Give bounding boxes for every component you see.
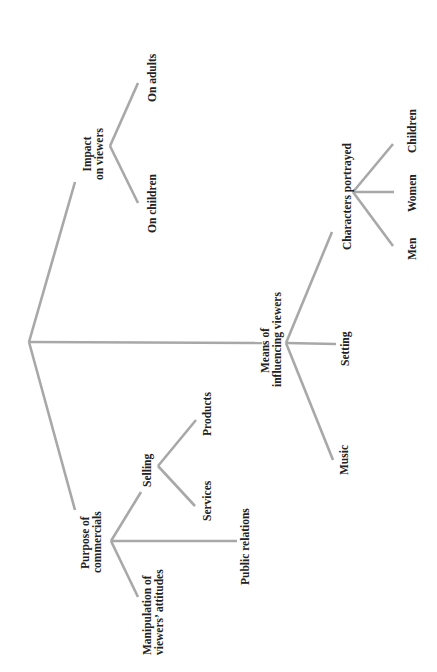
node-women: Women: [406, 174, 418, 212]
node-purpose-of-commercials: Purpose of commercials: [79, 511, 103, 573]
node-manipulation-line1: Manipulation of: [141, 569, 153, 655]
node-purpose-line1: Purpose of: [79, 511, 91, 573]
edge-root-impact: [29, 182, 75, 342]
node-services: Services: [201, 481, 213, 521]
edge-characters-children: [353, 144, 393, 192]
node-means-line1: Means of: [259, 292, 271, 387]
node-means-of-influencing-viewers: Means of influencing viewers: [259, 292, 283, 387]
edge-root-purpose: [29, 342, 75, 510]
edge-selling-services: [158, 466, 195, 506]
node-children: Children: [406, 109, 418, 153]
tree-diagram: Impact on viewers On children On adults …: [0, 0, 437, 672]
edge-root-means: [29, 342, 262, 343]
edge-means-setting: [286, 343, 336, 344]
node-impact-line2: on viewers: [93, 121, 105, 187]
tree-edges: [0, 0, 437, 672]
node-purpose-line2: commercials: [91, 511, 103, 573]
node-characters-portrayed: Characters portrayed: [341, 143, 353, 250]
edge-purpose-manipulation: [111, 541, 138, 597]
edge-means-music: [286, 343, 333, 460]
edge-impact-adults: [110, 83, 138, 146]
edge-impact-children: [110, 146, 138, 203]
edge-selling-products: [158, 420, 196, 466]
node-setting: Setting: [339, 332, 351, 367]
node-impact-line1: Impact: [81, 121, 93, 187]
node-public-relations: Public relations: [239, 508, 251, 585]
node-men: Men: [406, 238, 418, 260]
node-impact-on-viewers: Impact on viewers: [81, 121, 105, 187]
node-manipulation-of-viewers-attitudes: Manipulation of viewers’ attitudes: [141, 569, 165, 655]
node-music: Music: [338, 445, 350, 475]
node-on-adults: On adults: [146, 54, 158, 102]
node-on-children: On children: [146, 174, 158, 233]
node-products: Products: [201, 392, 213, 436]
edge-means-characters: [286, 232, 332, 343]
node-means-line2: influencing viewers: [271, 292, 283, 387]
edge-characters-men: [353, 192, 393, 246]
node-selling: Selling: [141, 454, 153, 487]
edge-purpose-selling: [111, 492, 141, 541]
node-manipulation-line2: viewers’ attitudes: [153, 569, 165, 655]
